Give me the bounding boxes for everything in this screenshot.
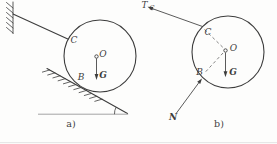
normal-vector-n (177, 83, 200, 114)
normal-n-label: N (168, 112, 178, 122)
physics-diagram-page: C O G B a) T C C O (0, 0, 277, 144)
incline-angle-arc (114, 107, 116, 114)
center-o-marker (95, 55, 98, 58)
wall-hatching (7, 3, 14, 34)
incline-line (47, 69, 128, 114)
weight-arrowhead (95, 74, 99, 80)
weight-arrowhead-fbd (224, 71, 228, 77)
incline-hatching (42, 70, 102, 101)
point-b-label: B (77, 72, 85, 82)
center-o-label-fbd: O (230, 43, 238, 53)
figure-b: T C C O G B N b) (141, 0, 264, 129)
figure-b-caption: b) (214, 118, 224, 129)
tension-vector-tc (152, 9, 202, 27)
weight-g-label-fbd: G (229, 67, 237, 77)
figure-a-caption: a) (66, 118, 75, 129)
center-o-label: O (99, 49, 107, 59)
cord-line (13, 14, 68, 39)
figure-a: C O G B a) (7, 2, 137, 129)
weight-g-label: G (99, 70, 107, 80)
point-c-label: C (71, 35, 78, 45)
dashed-radius-ob (205, 53, 224, 73)
tension-t-label: T (141, 0, 148, 10)
point-c-label-fbd: C (205, 27, 212, 37)
point-b-label-fbd: B (195, 67, 203, 77)
normal-arrowhead (197, 79, 202, 85)
diagram-canvas: C O G B a) T C C O (0, 0, 277, 144)
tension-t-subscript: C (150, 4, 155, 12)
center-o-marker-fbd (224, 49, 227, 52)
